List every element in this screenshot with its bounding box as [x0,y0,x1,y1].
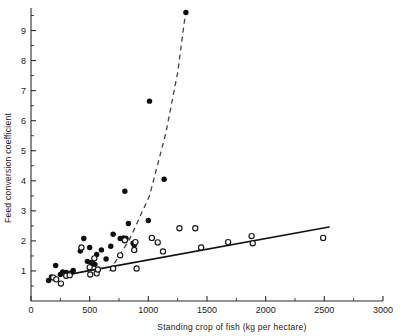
x-tick-label: 1500 [197,305,217,315]
data-point-open [226,240,231,245]
data-point-open [249,233,254,238]
x-tick-label: 2000 [256,305,276,315]
data-point-open [58,281,63,286]
data-point-filled [146,218,151,223]
y-tick-label: 3 [21,206,26,216]
tick-marks [31,16,383,301]
data-point-filled [92,262,97,267]
data-point-filled [103,256,108,261]
data-point-open [160,249,165,254]
data-point-open [67,273,72,278]
data-point-open [87,265,92,270]
y-tick-label: 2 [21,236,26,246]
y-tick-label: 5 [21,146,26,156]
x-tick-label: 2500 [314,305,334,315]
y-tick-label: 4 [21,176,26,186]
data-point-filled [81,236,86,241]
data-point-filled [110,232,115,237]
data-point-filled [99,247,104,252]
data-point-filled [126,221,131,226]
y-tick-label: 6 [21,116,26,126]
data-point-open [54,277,59,282]
data-point-open [79,245,84,250]
data-point-open [149,235,154,240]
data-point-open [199,245,204,250]
x-tick-label: 500 [82,305,97,315]
x-tick-label: 1000 [138,305,158,315]
data-point-open [111,266,116,271]
x-tick-label: 0 [28,305,33,315]
y-tick-label: 8 [21,56,26,66]
data-points [46,10,326,286]
data-point-filled [161,177,166,182]
dashed-trend-line [110,12,186,271]
data-point-open [118,253,123,258]
data-point-filled [53,263,58,268]
y-tick-label: 7 [21,86,26,96]
data-point-open [122,238,127,243]
data-point-open [92,256,97,261]
scatter-plot-figure: 050010001500200025003000123456789 Standi… [0,0,402,336]
x-axis-title: Standing crop of fish (kg per hectare) [157,322,306,332]
data-point-filled [122,189,127,194]
data-point-open [155,240,160,245]
data-point-open [134,266,139,271]
data-point-open [133,240,138,245]
y-tick-label: 9 [21,26,26,36]
data-point-open [88,272,93,277]
data-point-open [193,226,198,231]
axes [31,8,383,301]
data-point-filled [87,245,92,250]
data-point-filled [147,98,152,103]
data-point-open [177,226,182,231]
x-tick-label: 3000 [373,305,393,315]
data-point-filled [183,10,188,15]
data-point-open [95,267,100,272]
tick-labels: 050010001500200025003000123456789 [21,26,393,315]
data-point-open [321,235,326,240]
y-axis-title: Feed conversion coefficient [3,113,13,223]
data-point-open [250,241,255,246]
data-point-open [132,247,137,252]
y-tick-label: 1 [21,266,26,276]
data-point-filled [108,244,113,249]
data-point-filled [71,268,76,273]
chart-canvas: 050010001500200025003000123456789 Standi… [0,0,402,336]
